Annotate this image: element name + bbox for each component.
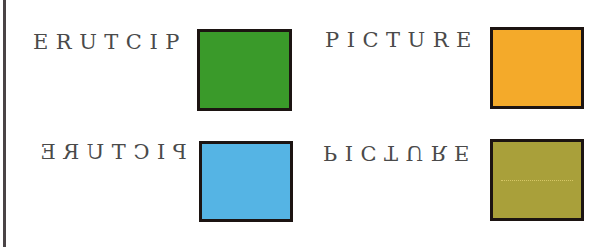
label-text: PICTURE [33,142,187,163]
label-text: ERUTCIP [33,30,187,54]
orange-swatch [490,27,584,109]
label-mirrored: PICTURE [33,142,187,163]
label-reversed: ERUTCIP [33,32,187,53]
label-text: PICTURE [323,142,477,163]
label-flipped: PICTURE [323,142,477,163]
left-border-line [3,0,6,247]
label-text: PICTURE [325,28,479,52]
green-swatch [197,29,292,111]
label-normal: PICTURE [325,30,479,51]
olive-swatch [490,139,584,221]
dotted-line [501,180,573,181]
blue-swatch [199,141,293,222]
